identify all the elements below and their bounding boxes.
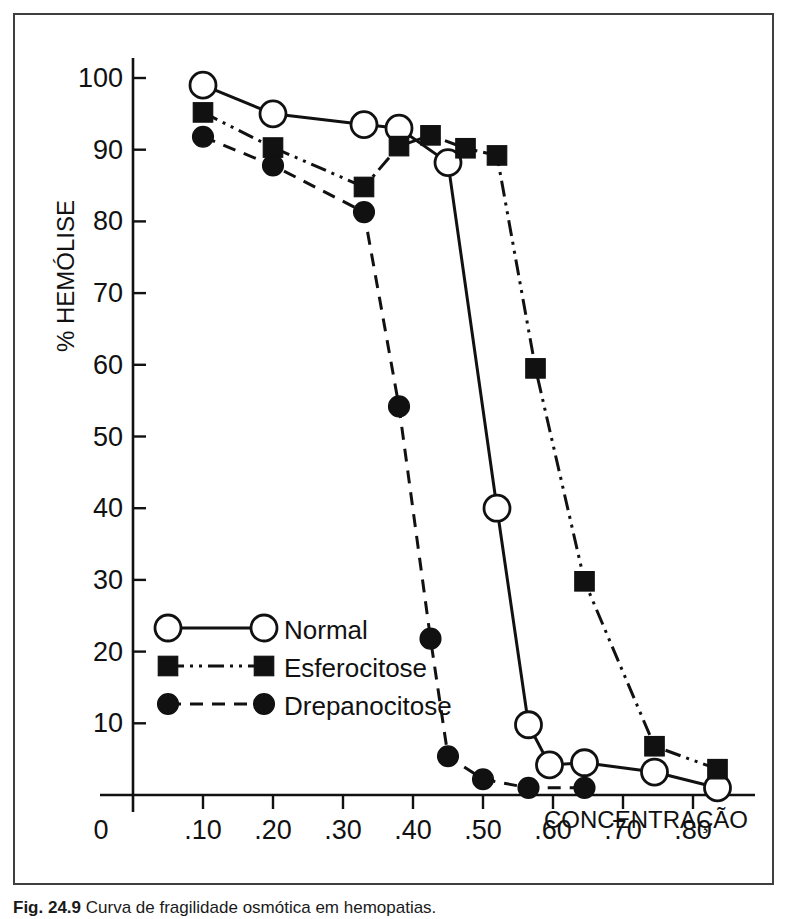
x-tick-label: .30 (324, 815, 362, 845)
caption-figure-number: Fig. 24.9 (13, 898, 81, 917)
y-tick-label: 60 (93, 350, 123, 380)
data-point-filled-square (487, 146, 506, 165)
x-tick-label: 0 (93, 815, 108, 845)
data-point-open-circle (190, 72, 216, 98)
legend-label: Drepanocitose (284, 691, 452, 721)
x-tick-label: .10 (184, 815, 222, 845)
y-tick-label: 30 (93, 565, 123, 595)
x-axis-title: CONCENTRAÇÃO (544, 806, 748, 833)
caption-body: Curva de fragilidade osmótica em hemopat… (86, 898, 437, 917)
data-point-filled-circle (438, 746, 459, 767)
data-point-open-circle (155, 615, 181, 641)
y-axis-title: % HEMÓLISE (52, 200, 79, 352)
figure-caption: Fig. 24.9 Curva de fragilidade osmótica … (13, 898, 774, 919)
data-point-open-circle (516, 712, 542, 738)
y-tick-label: 90 (93, 135, 123, 165)
legend-item-drepanocitose: Drepanocitose (158, 691, 452, 721)
y-tick-label-group: 102030405060708090100 (78, 63, 123, 738)
data-point-open-circle (251, 615, 277, 641)
data-point-filled-square (526, 359, 545, 378)
series-line (203, 112, 718, 769)
data-point-filled-circle (254, 694, 275, 715)
figure-root: 102030405060708090100 0.10.20.30.40.50.6… (0, 0, 791, 919)
data-point-open-circle (484, 495, 510, 521)
data-point-filled-circle (263, 155, 284, 176)
y-tick-label: 10 (93, 708, 123, 738)
data-point-filled-square (645, 737, 664, 756)
legend-item-esferocitose: Esferocitose (158, 653, 427, 683)
legend-label: Normal (284, 615, 368, 645)
data-point-open-circle (260, 101, 286, 127)
x-tick-label: .40 (394, 815, 432, 845)
data-point-filled-square (708, 759, 727, 778)
data-point-filled-circle (158, 694, 179, 715)
data-point-filled-square (421, 126, 440, 145)
series-esferocitose (193, 103, 727, 779)
data-point-filled-square (389, 136, 408, 155)
y-tick-group (133, 78, 146, 723)
chart-legend: NormalEsferocitoseDrepanocitose (155, 615, 452, 721)
legend-label: Esferocitose (284, 653, 427, 683)
data-point-filled-circle (193, 126, 214, 147)
x-tick-label: .20 (254, 815, 292, 845)
y-tick-label: 80 (93, 206, 123, 236)
data-point-filled-square (193, 103, 212, 122)
data-point-open-circle (537, 752, 563, 778)
data-point-open-circle (642, 759, 668, 785)
hemolysis-chart: 102030405060708090100 0.10.20.30.40.50.6… (0, 0, 791, 919)
y-tick-label: 100 (78, 63, 123, 93)
data-point-filled-circle (354, 202, 375, 223)
data-point-filled-circle (420, 628, 441, 649)
data-point-filled-square (254, 656, 273, 675)
data-point-filled-square (354, 177, 373, 196)
data-point-filled-square (263, 138, 282, 157)
y-tick-label: 50 (93, 422, 123, 452)
data-point-filled-circle (473, 769, 494, 790)
data-point-filled-square (158, 656, 177, 675)
x-tick-label: .50 (464, 815, 502, 845)
data-point-filled-circle (574, 778, 595, 799)
y-tick-label: 40 (93, 493, 123, 523)
series-line (203, 85, 718, 788)
legend-item-normal: Normal (155, 615, 368, 645)
y-tick-label: 20 (93, 637, 123, 667)
data-point-open-circle (572, 750, 598, 776)
data-point-open-circle (351, 112, 377, 138)
series-normal (190, 72, 731, 801)
data-point-filled-circle (389, 396, 410, 417)
data-point-filled-circle (518, 778, 539, 799)
y-tick-label: 70 (93, 278, 123, 308)
series-layer (190, 72, 731, 801)
data-point-filled-square (456, 139, 475, 158)
data-point-filled-square (575, 572, 594, 591)
